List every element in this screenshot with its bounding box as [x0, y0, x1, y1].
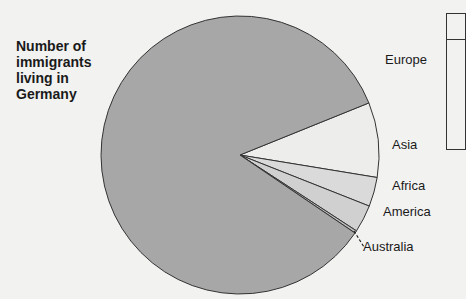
label-europe: Europe	[385, 52, 427, 67]
label-africa: Africa	[392, 178, 425, 193]
label-australia: Australia	[363, 239, 414, 254]
label-asia: Asia	[392, 137, 417, 152]
label-america: America	[383, 204, 431, 219]
cropped-table-box	[446, 13, 466, 150]
pie-slices	[101, 16, 379, 294]
table-divider	[447, 39, 465, 40]
